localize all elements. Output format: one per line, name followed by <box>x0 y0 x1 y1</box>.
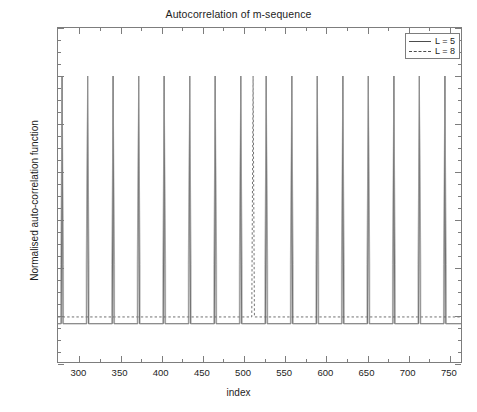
axis-tick <box>458 112 461 113</box>
x-tick-label: 300 <box>70 367 86 378</box>
axis-tick <box>58 112 61 113</box>
axis-tick <box>458 148 461 149</box>
axis-tick <box>458 196 461 197</box>
axis-tick <box>455 172 461 173</box>
plot-area <box>57 27 462 363</box>
axis-tick <box>285 356 286 362</box>
x-tick-label: 750 <box>441 367 457 378</box>
axis-tick <box>58 124 64 125</box>
axis-tick <box>455 268 461 269</box>
axis-tick <box>458 160 461 161</box>
axis-tick <box>141 28 142 31</box>
axis-tick <box>458 256 461 257</box>
x-tick-label: 550 <box>276 367 292 378</box>
plot-clip <box>58 28 461 362</box>
axis-tick <box>58 352 61 353</box>
axis-tick <box>458 64 461 65</box>
legend-line-swatch-2 <box>409 51 431 52</box>
axis-tick <box>58 136 61 137</box>
x-tick-label: 500 <box>235 367 251 378</box>
axis-tick <box>58 328 61 329</box>
legend-item-label: L = 5 <box>435 36 455 46</box>
axis-tick <box>58 88 61 89</box>
axis-tick <box>458 328 461 329</box>
chart-title: Autocorrelation of m-sequence <box>0 8 477 20</box>
axis-tick <box>58 268 64 269</box>
axis-tick <box>409 356 410 362</box>
axis-tick <box>326 28 327 34</box>
axis-tick <box>79 356 80 362</box>
axis-tick <box>265 359 266 362</box>
axis-tick <box>455 220 461 221</box>
x-tick-label: 450 <box>194 367 210 378</box>
axis-tick <box>58 196 61 197</box>
axis-tick <box>223 359 224 362</box>
axis-tick <box>58 244 61 245</box>
axis-tick <box>100 28 101 31</box>
axis-tick <box>455 316 461 317</box>
axis-tick <box>326 356 327 362</box>
axis-tick <box>203 28 204 34</box>
axis-tick <box>347 359 348 362</box>
axis-tick <box>306 359 307 362</box>
axis-tick <box>368 356 369 362</box>
chart-figure: Autocorrelation of m-sequence -0.200.20.… <box>0 0 477 412</box>
axis-tick <box>100 359 101 362</box>
axis-tick <box>58 148 61 149</box>
y-axis-title: Normalised auto-correlation function <box>29 71 40 331</box>
axis-tick <box>58 256 61 257</box>
axis-tick <box>458 232 461 233</box>
x-tick-label: 650 <box>359 367 375 378</box>
axis-tick <box>223 28 224 31</box>
axis-tick <box>388 359 389 362</box>
legend-item[interactable]: L = 5 <box>409 36 455 46</box>
x-tick-label: 350 <box>112 367 128 378</box>
x-tick-label: 400 <box>153 367 169 378</box>
axis-tick <box>429 28 430 31</box>
axis-tick <box>58 220 64 221</box>
axis-tick <box>388 28 389 31</box>
x-tick-label: 700 <box>400 367 416 378</box>
axis-tick <box>306 28 307 31</box>
axis-tick <box>182 359 183 362</box>
axis-tick <box>58 40 61 41</box>
axis-tick <box>141 359 142 362</box>
axis-tick <box>58 100 61 101</box>
axis-tick <box>58 184 61 185</box>
series-l8-path <box>58 76 461 317</box>
axis-tick <box>58 280 61 281</box>
axis-tick <box>58 52 61 53</box>
axis-tick <box>265 28 266 31</box>
axis-tick <box>455 124 461 125</box>
axis-tick <box>58 160 61 161</box>
axis-tick <box>458 244 461 245</box>
axis-tick <box>203 356 204 362</box>
axis-tick <box>58 292 61 293</box>
axis-tick <box>244 356 245 362</box>
legend-line-swatch-1 <box>409 41 431 42</box>
series-l5-path <box>58 76 461 324</box>
axis-tick <box>58 316 64 317</box>
axis-tick <box>121 28 122 34</box>
axis-tick <box>244 28 245 34</box>
legend-item[interactable]: L = 8 <box>409 46 455 56</box>
legend-item-label: L = 8 <box>435 46 455 56</box>
axis-tick <box>458 208 461 209</box>
axis-tick <box>162 356 163 362</box>
axis-tick <box>162 28 163 34</box>
axis-tick <box>450 356 451 362</box>
axis-tick <box>58 304 61 305</box>
axis-tick <box>458 184 461 185</box>
axis-tick <box>458 88 461 89</box>
axis-tick <box>458 280 461 281</box>
axis-tick <box>58 208 61 209</box>
l8-line <box>58 76 461 317</box>
plot-series-svg <box>58 28 461 362</box>
axis-tick <box>58 232 61 233</box>
axis-tick <box>58 64 61 65</box>
axis-tick <box>285 28 286 34</box>
axis-tick <box>182 28 183 31</box>
x-axis-title: index <box>0 387 477 398</box>
axis-tick <box>458 136 461 137</box>
axis-tick <box>58 76 64 77</box>
